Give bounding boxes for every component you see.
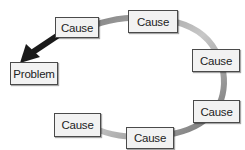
cause-label: Cause [61, 119, 93, 131]
cause-box-1: Cause [55, 17, 99, 38]
cause-box-3: Cause [192, 49, 240, 72]
cause-label: Cause [61, 22, 93, 34]
cause-box-6: Cause [54, 113, 101, 137]
cause-label: Cause [200, 106, 232, 118]
cause-box-5: Cause [126, 127, 174, 149]
cause-box-4: Cause [193, 100, 240, 123]
cause-label: Cause [134, 132, 166, 144]
cause-box-2: Cause [128, 10, 178, 33]
problem-box: Problem [10, 62, 58, 85]
arrow-to-problem-icon [20, 34, 60, 63]
problem-label: Problem [13, 68, 54, 80]
cause-label: Cause [200, 55, 232, 67]
cause-label: Cause [137, 16, 169, 28]
